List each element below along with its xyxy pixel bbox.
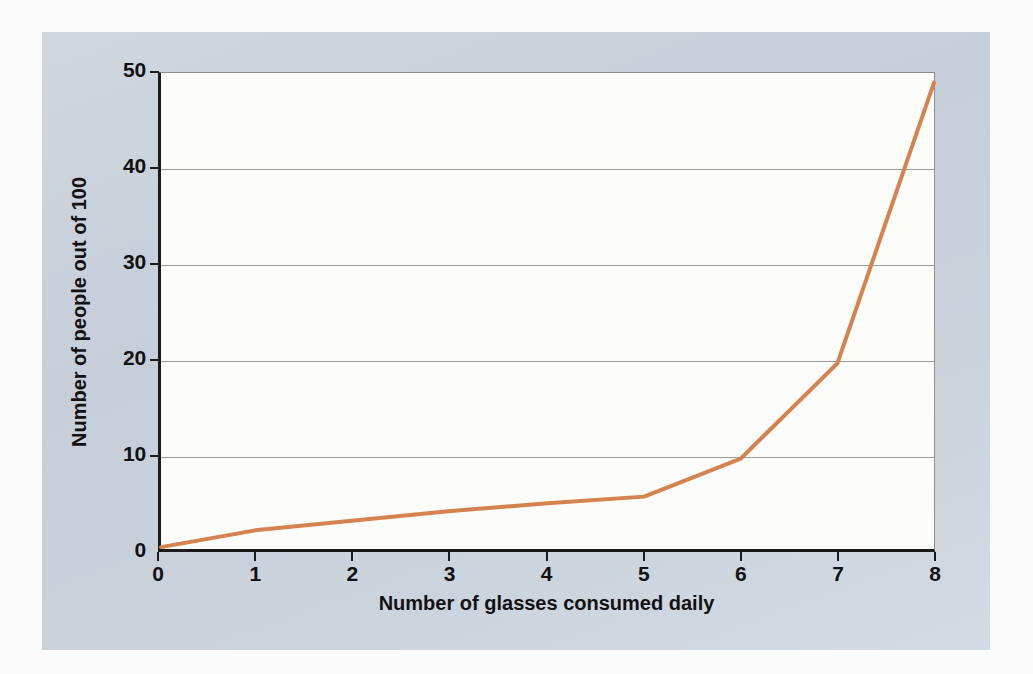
x-tick-mark bbox=[351, 552, 353, 561]
x-tick-label: 8 bbox=[915, 562, 955, 586]
x-tick-label: 6 bbox=[721, 562, 761, 586]
y-tick-mark bbox=[150, 455, 159, 457]
x-tick-mark bbox=[837, 552, 839, 561]
y-axis-title-wrap: Number of people out of 100 bbox=[62, 72, 96, 552]
y-tick-label: 10 bbox=[98, 442, 146, 466]
y-tick-mark bbox=[150, 359, 159, 361]
y-tick-label: 50 bbox=[98, 58, 146, 82]
x-axis-title: Number of glasses consumed daily bbox=[158, 592, 935, 615]
y-tick-label: 20 bbox=[98, 346, 146, 370]
y-tick-mark bbox=[150, 263, 159, 265]
plot-inner bbox=[161, 73, 934, 549]
y-tick-label: 30 bbox=[98, 250, 146, 274]
y-tick-label: 0 bbox=[98, 538, 146, 562]
x-tick-mark bbox=[934, 552, 936, 561]
x-tick-label: 1 bbox=[235, 562, 275, 586]
x-tick-label: 7 bbox=[818, 562, 858, 586]
figure-root: 012345678 01020304050 Number of glasses … bbox=[0, 0, 1033, 674]
x-tick-mark bbox=[254, 552, 256, 561]
y-tick-label: 40 bbox=[98, 154, 146, 178]
x-tick-mark bbox=[157, 552, 159, 561]
x-tick-mark bbox=[740, 552, 742, 561]
x-tick-label: 5 bbox=[624, 562, 664, 586]
y-axis-title: Number of people out of 100 bbox=[68, 177, 91, 447]
y-tick-mark bbox=[150, 71, 159, 73]
y-axis-tick-labels: 01020304050 bbox=[92, 0, 146, 674]
y-tick-mark bbox=[150, 167, 159, 169]
series-polyline bbox=[161, 83, 934, 548]
x-tick-label: 4 bbox=[527, 562, 567, 586]
plot-area bbox=[158, 72, 935, 552]
x-tick-mark bbox=[448, 552, 450, 561]
x-tick-label: 3 bbox=[429, 562, 469, 586]
x-tick-mark bbox=[546, 552, 548, 561]
x-tick-label: 2 bbox=[332, 562, 372, 586]
series-line-chart bbox=[161, 73, 934, 549]
x-tick-mark bbox=[643, 552, 645, 561]
